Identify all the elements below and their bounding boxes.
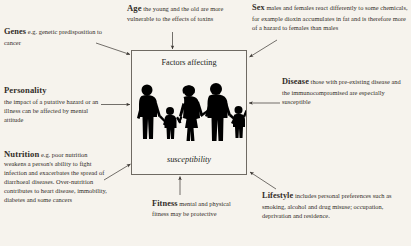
note-personality-lead: Personality	[4, 84, 108, 96]
center-subtitle: susceptibility	[132, 155, 246, 164]
note-nutrition-lead: Nutrition	[4, 149, 39, 159]
note-genes-lead: Genes	[4, 27, 26, 36]
note-personality-body: the impact of a putative hazard or an il…	[4, 98, 98, 123]
note-disease-lead: Disease	[282, 77, 309, 86]
note-fitness-lead: Fitness	[152, 199, 178, 208]
note-age: Age the young and the old are more vulne…	[127, 2, 239, 23]
note-nutrition: Nutrition e.g. poor nutrition weakens a …	[4, 148, 111, 205]
arrow-sex	[250, 40, 278, 57]
note-sex-lead: Sex	[252, 3, 265, 12]
note-personality: Personality the impact of a putative haz…	[4, 84, 108, 124]
note-genes: Genes e.g. genetic predisposition to can…	[4, 26, 108, 47]
central-concept-box: Factors affecting	[131, 50, 247, 175]
susceptibility-factors-diagram: Factors affecting	[0, 0, 411, 246]
note-sex-body: males and females react differently to s…	[252, 4, 408, 31]
note-sex: Sex males and females react differently …	[252, 2, 409, 32]
note-disease: Disease those with pre-existing disease …	[282, 76, 408, 106]
note-age-lead: Age	[127, 3, 142, 13]
family-silhouette-icon	[134, 82, 246, 142]
note-fitness: Fitness mental and physical fitness may …	[152, 198, 236, 219]
note-lifestyle-lead: Lifestyle	[262, 191, 293, 200]
arrow-lifestyle	[250, 172, 276, 189]
note-lifestyle: Lifestyle includes personal preferences …	[262, 190, 409, 220]
note-age-body: the young and the old are more vulnerabl…	[127, 5, 223, 22]
center-title: Factors affecting	[132, 58, 246, 67]
